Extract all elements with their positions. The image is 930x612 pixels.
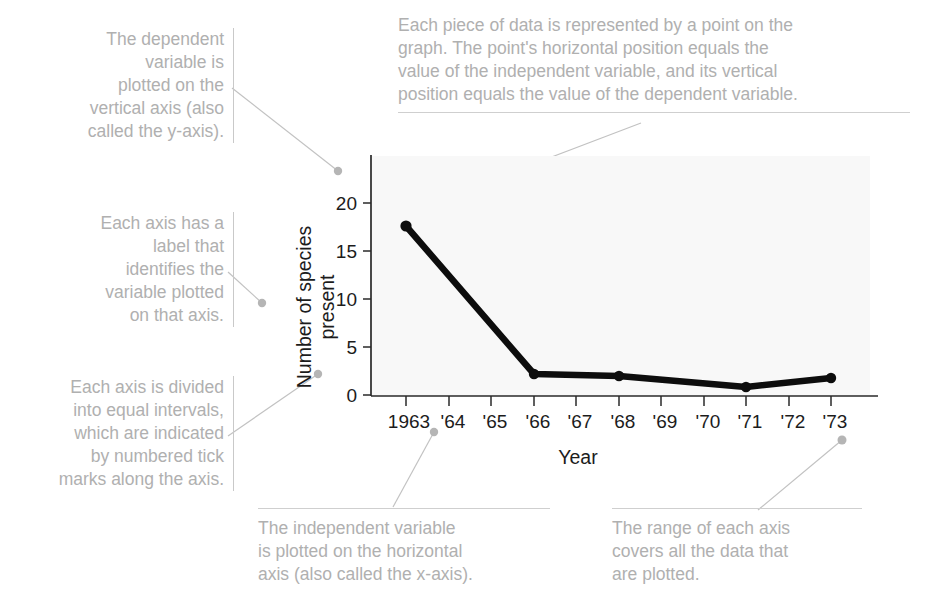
- x-tick-label-71: '71: [738, 411, 763, 432]
- y-tick-label-5: 5: [346, 337, 357, 358]
- x-tick-label-72: '72: [781, 411, 806, 432]
- x-tick-label-69: '69: [653, 411, 678, 432]
- x-axis-title: Year: [558, 446, 598, 468]
- x-tick-label-1963: 1963: [388, 411, 430, 432]
- annotation-dependent-variable: The dependent variable is plotted on the…: [28, 28, 234, 143]
- y-axis-title: Number of species present: [293, 225, 338, 388]
- figure-page: 20 15 10 5 0 1963 '64 '65 '66 '67: [0, 0, 930, 612]
- annotation-independent-variable: The independent variable is plotted on t…: [258, 508, 550, 586]
- y-tick-label-0: 0: [346, 385, 357, 406]
- data-point-1963: [400, 220, 411, 231]
- y-axis-tick-labels: 20 15 10 5 0: [336, 193, 357, 406]
- annotation-axis-range: The range of each axis covers all the da…: [612, 508, 862, 586]
- y-tick-label-10: 10: [336, 289, 357, 310]
- data-point-66: [529, 369, 539, 379]
- x-tick-label-73: '73: [823, 411, 848, 432]
- x-tick-label-65: '65: [483, 411, 508, 432]
- y-axis-title-line2: present: [316, 274, 338, 340]
- annotation-axis-label: Each axis has a label that identifies th…: [28, 212, 234, 327]
- x-tick-label-64: '64: [441, 411, 466, 432]
- y-axis-title-line1: Number of species: [293, 225, 315, 388]
- y-tick-label-15: 15: [336, 241, 357, 262]
- x-tick-label-68: '68: [611, 411, 636, 432]
- annotation-data-point: Each piece of data is represented by a p…: [398, 14, 910, 113]
- data-point-71: [741, 382, 751, 392]
- y-axis-ticks: [363, 203, 371, 395]
- x-axis-tick-labels: 1963 '64 '65 '66 '67 '68 '69 '70 '71 '72…: [388, 411, 848, 432]
- x-tick-label-67: '67: [568, 411, 593, 432]
- y-tick-label-20: 20: [336, 193, 357, 214]
- data-point-73: [826, 373, 836, 383]
- x-axis-ticks: [406, 396, 831, 406]
- data-point-68: [614, 371, 624, 381]
- x-tick-label-70: '70: [696, 411, 721, 432]
- x-tick-label-66: '66: [526, 411, 551, 432]
- annotation-equal-intervals: Each axis is divided into equal interval…: [0, 376, 234, 491]
